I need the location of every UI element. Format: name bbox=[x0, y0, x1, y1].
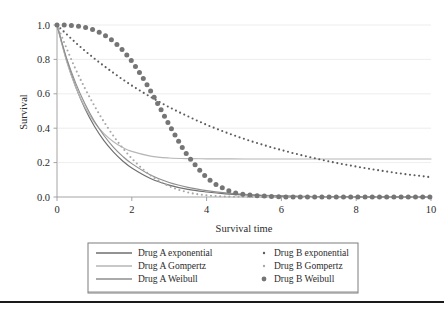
data-marker bbox=[240, 192, 245, 197]
data-marker bbox=[55, 23, 60, 28]
data-marker bbox=[196, 119, 198, 121]
data-marker bbox=[247, 139, 249, 141]
data-marker bbox=[90, 55, 92, 57]
data-marker bbox=[274, 196, 276, 198]
data-marker bbox=[69, 23, 74, 28]
legend-label: Drug A Gompertz bbox=[138, 261, 206, 271]
data-marker bbox=[238, 136, 240, 138]
data-marker bbox=[58, 28, 60, 30]
x-tick-label: 2 bbox=[129, 204, 134, 215]
data-marker bbox=[83, 49, 85, 51]
data-marker bbox=[283, 194, 288, 199]
data-marker bbox=[274, 147, 276, 149]
data-marker bbox=[155, 101, 160, 106]
data-marker bbox=[157, 180, 159, 182]
data-marker bbox=[97, 61, 99, 63]
data-marker bbox=[129, 156, 131, 158]
data-marker bbox=[167, 105, 169, 107]
data-marker bbox=[152, 95, 157, 100]
data-marker bbox=[370, 195, 375, 200]
data-marker bbox=[309, 156, 311, 158]
data-marker bbox=[399, 195, 404, 200]
y-tick-label: 0.8 bbox=[37, 54, 50, 65]
data-marker bbox=[80, 79, 82, 81]
x-tick-label: 8 bbox=[354, 204, 359, 215]
data-marker bbox=[204, 123, 206, 125]
data-marker bbox=[129, 58, 134, 63]
data-marker bbox=[192, 192, 194, 194]
data-marker bbox=[179, 112, 181, 114]
data-marker bbox=[243, 138, 245, 140]
data-marker bbox=[238, 196, 240, 198]
data-marker bbox=[166, 184, 168, 186]
y-tick-label: 0.0 bbox=[37, 192, 50, 203]
data-marker bbox=[225, 132, 227, 134]
data-marker bbox=[97, 30, 102, 35]
data-marker bbox=[127, 82, 129, 84]
data-marker bbox=[224, 195, 226, 197]
data-marker bbox=[230, 133, 232, 135]
data-marker bbox=[323, 159, 325, 161]
data-marker bbox=[83, 25, 88, 30]
data-marker bbox=[63, 41, 65, 43]
data-marker bbox=[176, 139, 181, 144]
legend-entry-drug-b-exponential[interactable]: Drug B exponential bbox=[263, 248, 349, 258]
data-marker bbox=[427, 195, 432, 200]
data-marker bbox=[63, 30, 65, 32]
data-marker bbox=[332, 161, 334, 163]
survival-chart: 0.00.20.40.60.81.0 0246810 Survival Surv… bbox=[0, 0, 444, 309]
data-marker bbox=[196, 193, 198, 195]
data-marker bbox=[359, 166, 361, 168]
data-marker bbox=[373, 168, 375, 170]
data-marker bbox=[95, 107, 97, 109]
data-marker bbox=[296, 153, 298, 155]
data-marker bbox=[165, 120, 170, 125]
data-marker bbox=[341, 195, 346, 200]
data-marker bbox=[327, 195, 332, 200]
data-marker bbox=[201, 194, 203, 196]
data-marker bbox=[131, 85, 133, 87]
data-marker bbox=[197, 168, 202, 173]
data-marker bbox=[90, 99, 92, 101]
data-marker bbox=[107, 127, 109, 129]
data-marker bbox=[153, 177, 155, 179]
data-marker bbox=[413, 195, 418, 200]
data-marker bbox=[105, 66, 107, 68]
data-marker bbox=[119, 77, 121, 79]
data-marker bbox=[109, 131, 111, 133]
data-marker bbox=[260, 143, 262, 145]
data-marker bbox=[162, 114, 167, 119]
data-marker bbox=[66, 49, 68, 51]
data-marker bbox=[389, 196, 391, 198]
data-marker bbox=[298, 195, 303, 200]
data-marker bbox=[363, 167, 365, 169]
data-marker bbox=[65, 45, 67, 47]
data-marker bbox=[76, 43, 78, 45]
data-marker bbox=[291, 195, 296, 200]
data-marker bbox=[135, 87, 137, 89]
data-marker bbox=[382, 170, 384, 172]
data-marker bbox=[118, 142, 120, 144]
data-marker bbox=[103, 33, 108, 38]
data-marker bbox=[109, 37, 114, 42]
data-marker bbox=[278, 148, 280, 150]
data-marker bbox=[73, 40, 75, 42]
data-marker bbox=[99, 115, 101, 117]
data-marker bbox=[72, 62, 74, 64]
data-marker bbox=[193, 162, 198, 167]
data-marker bbox=[305, 195, 310, 200]
data-marker bbox=[420, 195, 425, 200]
data-marker bbox=[76, 24, 81, 29]
data-marker bbox=[413, 174, 415, 176]
data-marker bbox=[180, 145, 185, 150]
data-marker bbox=[184, 151, 189, 156]
data-marker bbox=[88, 95, 90, 97]
data-marker bbox=[341, 163, 343, 165]
data-marker bbox=[327, 160, 329, 162]
data-marker bbox=[92, 103, 94, 105]
data-marker bbox=[252, 141, 254, 143]
legend-entry-drug-b-gompertz[interactable]: Drug B Gompertz bbox=[263, 261, 343, 271]
y-tick-label: 1.0 bbox=[37, 20, 50, 31]
data-marker bbox=[82, 83, 84, 85]
legend-label: Drug A Weibull bbox=[138, 274, 198, 284]
